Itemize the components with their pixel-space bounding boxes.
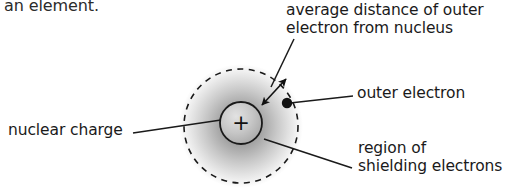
label-region-of-shielding-electrons: region ofshielding electrons [358,139,502,175]
caption-fragment: an element. [4,0,99,15]
nuclear-charge-plus-sign: + [228,110,254,136]
outer-electron-leader-line [290,96,353,103]
label-nuclear-charge: nuclear charge [8,121,123,139]
label-outer-electron: outer electron [357,84,465,102]
atom-shielding-diagram: + an element. average distance of outere… [0,0,528,192]
average-distance-leader-line [271,39,294,87]
label-region-shielding-line1: region of [358,139,426,157]
label-average-distance: average distance of outerelectron from n… [286,1,484,37]
outer-electron-dot [282,98,292,108]
label-region-shielding-line2: shielding electrons [358,157,502,175]
label-average-distance-line1: average distance of outer [286,1,484,19]
label-average-distance-line2: electron from nucleus [286,19,453,37]
